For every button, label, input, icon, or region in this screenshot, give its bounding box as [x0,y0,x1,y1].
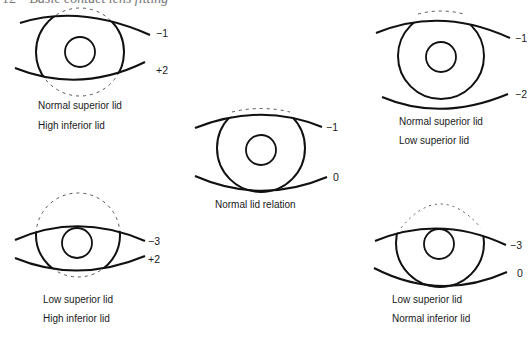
upper-lid-value: −1 [326,121,338,133]
lens-outline [396,199,484,287]
eye-panel-normal-lid-relation [195,104,327,192]
upper-lid-value: −1 [515,32,527,44]
lower-lid [382,94,508,109]
caption-line-1: Low superior lid [43,294,113,306]
upper-lid [20,16,150,35]
pupil [424,229,454,259]
upper-lid-value: −1 [156,27,168,39]
lower-lid-value: −2 [515,88,527,100]
caption-line-2: Normal inferior lid [392,313,470,325]
lower-lid-value: +2 [156,64,168,76]
pupil [426,42,456,72]
lens-outline-dashed [418,11,464,14]
lower-lid-value: +2 [148,253,160,265]
upper-lid [376,21,510,38]
caption-line-1: Normal superior lid [399,116,483,128]
lens-outline [36,193,120,277]
caption-line-2: High inferior lid [43,313,110,325]
caption-line-2: High inferior lid [38,120,105,132]
upper-lid-value: −3 [510,239,522,251]
lower-lid-value: 0 [517,267,523,279]
caption-line-1: Normal superior lid [38,100,122,112]
caption-line-1: Normal lid relation [215,199,296,211]
caption-line-1: Low superior lid [392,294,462,306]
eye-panel-normal-superior-low-superior [376,11,510,109]
upper-lid [195,115,322,128]
lens-outline-dashed [401,204,481,228]
upper-lid-value: −3 [148,235,160,247]
eye-panel-low-superior-high-inferior [15,193,145,277]
lower-lid-value: 0 [333,171,339,183]
pupil [65,37,95,67]
lower-lid [374,268,507,286]
eye-panel-normal-superior-high-inferior [15,8,150,96]
lens-outline [398,13,484,99]
pupil [62,228,92,258]
caption-line-2: Low superior lid [399,135,469,147]
lower-lid [15,62,145,80]
pupil [246,135,276,165]
lid-relation-diagram [0,0,531,337]
eye-panel-low-superior-normal-inferior [374,199,507,287]
lower-lid [195,176,327,191]
upper-lid [375,228,506,245]
lens-outline-dashed [232,109,290,113]
